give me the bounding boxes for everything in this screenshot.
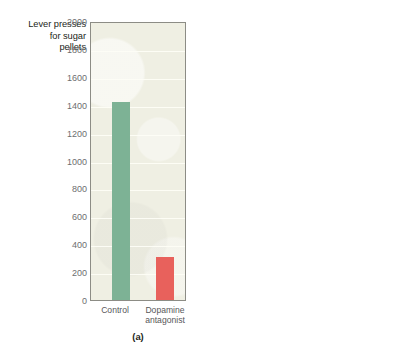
gridline-a-1400 [91,107,185,108]
y-tick-label-a-1000: 1000 [56,157,87,166]
y-tick-label-a-1600: 1600 [56,73,87,82]
y-tick-label-a-600: 600 [56,213,87,222]
gridline-a-800 [91,190,185,191]
y-tick-label-a-1400: 1400 [56,101,87,110]
gridline-a-1000 [91,163,185,164]
gridline-a-1200 [91,135,185,136]
chart-panel-a: Lever presses for sugar pellets 2000 180… [0,0,201,357]
chart-panel-b: Intake of freely available chow (in gram… [201,0,403,357]
bar-a-dopamine-antagonist [156,257,174,300]
y-tick-label-a-400: 400 [56,241,87,250]
y-tick-label-a-800: 800 [56,185,87,194]
y-tick-label-a-200: 200 [56,269,87,278]
x-category-label-a-antagonist: Dopamine antagonist [134,305,196,326]
gridline-a-1600 [91,79,185,80]
x-category-label-a-control-line-1: Control [101,305,129,315]
gridline-a-1800 [91,51,185,52]
gridline-a-600 [91,218,185,219]
y-tick-label-a-2000: 2000 [56,18,87,27]
plot-area-a [90,22,186,301]
bar-a-control [112,102,130,300]
panel-letter-a: (a) [90,331,186,342]
y-tick-label-a-1200: 1200 [56,129,87,138]
y-tick-label-a-0: 0 [56,297,87,306]
x-category-label-a-antagonist-line-1: Dopamine [134,305,196,315]
gridline-a-400 [91,246,185,247]
y-tick-label-a-1800: 1800 [56,45,87,54]
x-category-label-a-control: Control [90,305,140,315]
x-category-label-a-antagonist-line-2: antagonist [134,315,196,325]
y-axis-title-a-line-2: for sugar [2,31,86,43]
